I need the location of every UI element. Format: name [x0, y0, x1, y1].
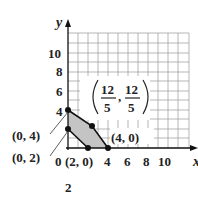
- y-axis-arrow-icon: [65, 19, 71, 27]
- vertex-4-0: [105, 145, 111, 151]
- x-tick-8: 8: [143, 154, 150, 169]
- y-tick-4: 4: [56, 104, 63, 119]
- point-label-0-2: (0, 2): [12, 150, 40, 165]
- below-label: 2: [65, 180, 72, 195]
- x-tick-4: 4: [104, 154, 111, 169]
- y-tick-10: 10: [48, 46, 61, 61]
- svg-text:12: 12: [125, 82, 138, 97]
- svg-text:5: 5: [128, 100, 135, 115]
- x-tick-10: 10: [158, 154, 171, 169]
- y-tick-6: 6: [56, 84, 63, 99]
- origin-label: 0: [55, 154, 62, 169]
- vertex-12-5: [89, 123, 95, 129]
- leader-line-0-2: [50, 131, 68, 156]
- point-label-0-4: (0, 4): [12, 128, 40, 143]
- feasible-region-chart: y x 10 8 6 4 0 4 6 8 10 (0, 4) (0, 2) (2…: [0, 0, 198, 201]
- point-label-4-0: (4, 0): [111, 130, 139, 145]
- x-axis-label: x: [192, 154, 198, 169]
- vertex-2-0: [85, 145, 91, 151]
- x-axis-arrow-icon: [190, 145, 198, 151]
- svg-text:12: 12: [101, 82, 114, 97]
- y-tick-8: 8: [56, 64, 63, 79]
- point-label-2-0: (2, 0): [65, 154, 93, 169]
- svg-text:5: 5: [104, 100, 111, 115]
- y-axis-label: y: [54, 15, 63, 30]
- x-tick-6: 6: [124, 154, 131, 169]
- svg-text:,: ,: [118, 89, 121, 104]
